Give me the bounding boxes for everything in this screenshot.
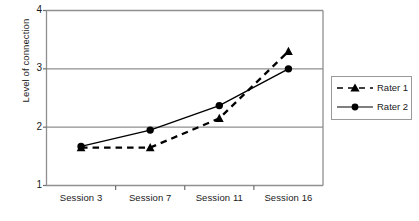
data-point-rater-2-0 [77,143,84,150]
line-chart: Level of connection 4321 Session 3Sessio… [0,0,419,221]
y-tick-label-3: 3 [28,63,42,73]
legend: Rater 1 Rater 2 [331,76,412,120]
data-point-rater-2-2 [216,102,223,109]
x-tick-label-1: Session 7 [116,192,185,203]
legend-item-rater-1: Rater 1 [332,80,411,96]
data-point-rater-2-1 [146,126,153,133]
legend-label-rater-1: Rater 1 [377,82,408,93]
y-tick-label-2: 2 [28,122,42,132]
legend-swatch-rater-2 [335,99,375,115]
legend-swatch-rater-1 [335,80,375,96]
legend-item-rater-2: Rater 2 [332,99,411,115]
series-line-rater-1 [81,51,288,147]
data-point-rater-1-2 [215,114,224,122]
data-point-rater-1-3 [284,47,293,55]
data-point-rater-2-3 [285,65,292,72]
x-tick-label-0: Session 3 [47,192,116,203]
x-tick-label-2: Session 11 [185,192,254,203]
x-tick-label-3: Session 16 [254,192,323,203]
y-tick-label-4: 4 [28,5,42,15]
legend-label-rater-2: Rater 2 [377,101,408,112]
y-tick-label-1: 1 [28,180,42,190]
